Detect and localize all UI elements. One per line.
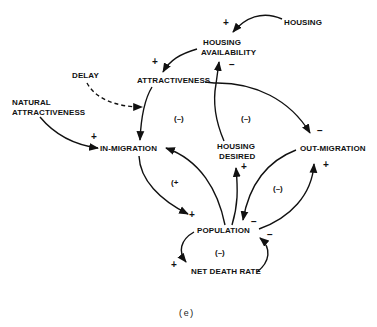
node-housing-desired-line1: HOUSING (217, 142, 255, 152)
loop-label-housing: (–) (241, 114, 251, 123)
figure-caption: (e) (178, 309, 194, 319)
loop-label-outmigration: (–) (273, 184, 283, 193)
node-attractiveness: ATTRACTIVENESS (137, 76, 210, 86)
sign-attractiveness-to-outmigration: − (317, 126, 323, 136)
node-net-death-rate: NET DEATH RATE (191, 267, 261, 277)
sign-housing-to-availability: + (223, 18, 229, 28)
sign-population-to-outmigration: + (323, 160, 329, 170)
node-natural-attractiveness-line2: ATTRACTIVENESS (12, 108, 85, 118)
sign-natural-to-inmigration: + (91, 132, 97, 142)
node-housing-availability-line2: AVAILABILITY (201, 48, 256, 58)
causal-loop-arrows (0, 0, 377, 327)
sign-population-to-desired: + (241, 162, 247, 172)
node-housing: HOUSING (284, 18, 322, 28)
loop-label-inmigration: (+ (171, 178, 178, 187)
loop-label-death-rate: (–) (215, 248, 225, 257)
sign-deathrate-to-population: − (267, 230, 273, 240)
node-in-migration: IN-MIGRATION (100, 144, 157, 154)
sign-population-to-deathrate: + (171, 260, 177, 270)
sign-inmigration-to-population: + (189, 210, 195, 220)
sign-desired-to-availability: − (229, 60, 235, 70)
node-housing-availability-line1: HOUSING (203, 38, 241, 48)
sign-outmigration-to-population: − (251, 217, 257, 227)
sign-availability-to-attractiveness: + (152, 57, 158, 67)
node-out-migration: OUT-MIGRATION (300, 144, 366, 154)
node-delay: DELAY (72, 71, 99, 81)
node-population: POPULATION (197, 226, 250, 236)
node-natural-attractiveness-line1: NATURAL (12, 98, 51, 108)
loop-label-attractiveness: (–) (174, 114, 184, 123)
node-housing-desired-line2: DESIRED (219, 152, 255, 162)
